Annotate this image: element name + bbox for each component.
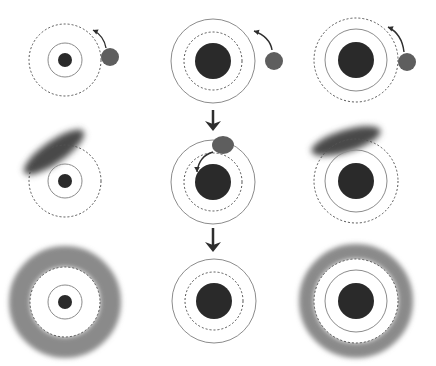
step-arrow-2 [205,228,221,252]
panel-middle-right [314,139,398,223]
satellite-body [265,52,283,70]
satellite-body [212,136,234,154]
step-arrow-1 [205,110,221,131]
orbital-evolution-diagram [0,0,436,366]
satellite-body [398,53,416,71]
central-core [338,163,374,199]
central-core [58,295,72,309]
satellite-body [101,48,119,66]
panel-top-middle [171,19,283,103]
central-core [58,53,72,67]
panel-top-left [29,24,119,96]
central-core [58,174,72,188]
tidal-stream-smudge [308,120,383,162]
panel-bottom-middle [172,259,256,343]
central-core [338,283,374,319]
central-core [196,283,232,319]
tidal-stream-smudge [18,122,90,181]
diagram-canvas [0,0,436,366]
panel-middle-middle [171,136,255,224]
central-core [338,42,374,78]
central-core [195,164,231,200]
central-core [195,43,231,79]
orbit-direction-arrow [388,27,404,52]
panel-top-right [314,18,416,102]
